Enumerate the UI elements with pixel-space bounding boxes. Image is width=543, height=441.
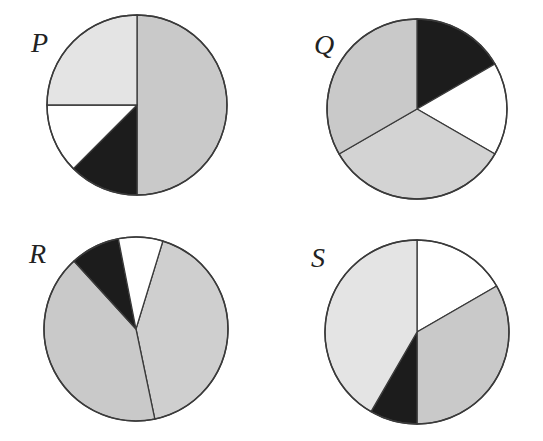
- pie-slice-light-gray: [47, 15, 137, 105]
- pie-label-p: P: [31, 29, 48, 57]
- pie-label-r: R: [29, 240, 46, 268]
- pie-chart-r: [44, 237, 228, 421]
- pie-chart-s: [325, 240, 509, 424]
- pie-label-q: Q: [314, 31, 334, 59]
- pie-slice-medium-gray: [137, 15, 227, 195]
- pie-chart-q: [327, 19, 507, 199]
- pie-charts-canvas: [0, 0, 543, 441]
- pie-label-s: S: [311, 244, 325, 272]
- pie-chart-p: [47, 15, 227, 195]
- pie-chart-figure: P Q R S: [0, 0, 543, 441]
